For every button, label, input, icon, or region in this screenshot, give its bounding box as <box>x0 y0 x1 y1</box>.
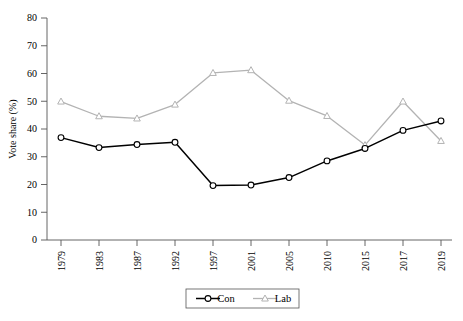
x-tick-label: 2019 <box>436 251 447 271</box>
legend-label: Lab <box>275 293 291 304</box>
y-tick-label: 10 <box>27 207 37 218</box>
y-tick-label: 0 <box>32 234 37 245</box>
y-tick-label: 20 <box>27 179 37 190</box>
x-tick-label: 1997 <box>208 251 219 271</box>
y-tick-label: 50 <box>27 96 37 107</box>
y-axis-tick-labels: 01020304050607080 <box>27 12 37 245</box>
x-tick-label: 2017 <box>398 251 409 271</box>
data-point-marker <box>172 139 178 145</box>
y-tick-label: 30 <box>27 151 37 162</box>
x-tick-label: 1987 <box>132 251 143 271</box>
data-point-marker <box>205 296 211 302</box>
data-point-marker <box>134 142 140 148</box>
chart-background <box>0 0 463 321</box>
x-tick-label: 2015 <box>360 251 371 271</box>
data-point-marker <box>400 127 406 133</box>
x-tick-label: 2010 <box>322 251 333 271</box>
x-tick-label: 2005 <box>284 251 295 271</box>
y-tick-label: 40 <box>27 123 37 134</box>
data-point-marker <box>248 182 254 188</box>
data-point-marker <box>58 135 64 141</box>
x-tick-label: 2001 <box>246 251 257 271</box>
data-point-marker <box>438 118 444 124</box>
chart-legend: ConLab <box>186 289 299 308</box>
chart-canvas: 01020304050607080 1979198319871992199720… <box>0 0 463 321</box>
data-point-marker <box>210 183 216 189</box>
x-tick-label: 1979 <box>56 251 67 271</box>
data-point-marker <box>286 175 292 181</box>
x-tick-label: 1983 <box>94 251 105 271</box>
legend-label: Con <box>217 293 235 304</box>
x-tick-label: 1992 <box>170 251 181 271</box>
y-tick-label: 60 <box>27 68 37 79</box>
y-tick-label: 80 <box>27 12 37 23</box>
vote-share-line-chart: 01020304050607080 1979198319871992199720… <box>0 0 463 321</box>
y-axis-title: Vote share (%) <box>7 99 19 158</box>
data-point-marker <box>362 146 368 152</box>
data-point-marker <box>96 145 102 151</box>
data-point-marker <box>324 158 330 164</box>
y-tick-label: 70 <box>27 40 37 51</box>
